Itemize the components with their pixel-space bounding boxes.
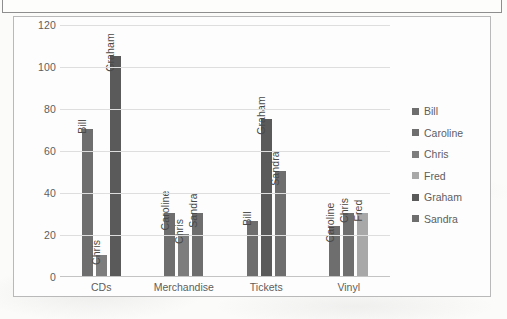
legend-label: Graham <box>424 191 462 203</box>
legend-label: Sandra <box>424 213 458 225</box>
chart-legend: BillCarolineChrisFredGrahamSandra <box>412 105 488 234</box>
bar-value-label: Fred <box>352 199 363 221</box>
x-axis-line <box>60 276 390 277</box>
gridline <box>60 109 390 110</box>
y-axis-tick-label: 60 <box>44 145 56 157</box>
page-bleed-text <box>60 301 460 317</box>
legend-item[interactable]: Caroline <box>412 127 488 139</box>
legend-label: Caroline <box>424 127 463 139</box>
bar-value-label: Sandra <box>187 193 198 227</box>
x-axis-category-label: Vinyl <box>308 281 391 293</box>
legend-item[interactable]: Chris <box>412 148 488 160</box>
legend-label: Bill <box>424 105 438 117</box>
y-axis-tick-label: 80 <box>44 103 56 115</box>
gridline <box>60 193 390 194</box>
legend-item[interactable]: Sandra <box>412 213 488 225</box>
y-axis-tick-label: 40 <box>44 187 56 199</box>
bar-value-label: Sandra <box>270 151 281 185</box>
bar-value-label: Graham <box>256 96 267 135</box>
legend-item[interactable]: Bill <box>412 105 488 117</box>
cropped-top-frame <box>2 0 502 13</box>
bar-value-label: Bill <box>242 211 253 225</box>
bar[interactable]: Graham <box>261 119 272 277</box>
bar-value-label: Caroline <box>159 190 170 230</box>
y-axis: 020406080100120 <box>22 25 56 277</box>
legend-swatch-icon <box>412 194 419 201</box>
legend-swatch-icon <box>412 215 419 222</box>
gridline <box>60 67 390 68</box>
gridline <box>60 151 390 152</box>
gridline <box>60 25 390 26</box>
bar-value-label: Graham <box>105 33 116 72</box>
y-axis-tick-label: 20 <box>44 229 56 241</box>
y-axis-tick-label: 100 <box>38 61 56 73</box>
plot-area: BillChrisGrahamCarolineChrisSandraBillGr… <box>60 25 390 277</box>
bar[interactable]: Bill <box>247 221 258 276</box>
bar[interactable]: Sandra <box>192 213 203 276</box>
bar-value-label: Chris <box>91 239 102 264</box>
x-axis-category-label: Merchandise <box>143 281 226 293</box>
bar[interactable]: Chris <box>343 213 354 276</box>
legend-swatch-icon <box>412 129 419 136</box>
bar[interactable]: Caroline <box>329 226 340 276</box>
gridline <box>60 235 390 236</box>
legend-item[interactable]: Graham <box>412 191 488 203</box>
bar-value-label: Bill <box>77 119 88 133</box>
bar[interactable]: Chris <box>178 234 189 276</box>
legend-item[interactable]: Fred <box>412 170 488 182</box>
x-axis-category-label: CDs <box>60 281 143 293</box>
legend-swatch-icon <box>412 172 419 179</box>
x-axis-category-label: Tickets <box>225 281 308 293</box>
y-axis-tick-label: 0 <box>50 271 56 283</box>
legend-label: Chris <box>424 148 449 160</box>
chart-plot-wrapper: 020406080100120 BillChrisGrahamCarolineC… <box>14 17 490 296</box>
y-axis-tick-label: 120 <box>38 19 56 31</box>
bar-value-label: Chris <box>173 218 184 243</box>
chart-frame: 020406080100120 BillChrisGrahamCarolineC… <box>13 16 491 297</box>
bar[interactable]: Sandra <box>275 171 286 276</box>
bar[interactable]: Fred <box>357 213 368 276</box>
legend-swatch-icon <box>412 108 419 115</box>
bar-value-label: Caroline <box>324 203 335 243</box>
bar[interactable]: Graham <box>110 56 121 277</box>
legend-label: Fred <box>424 170 446 182</box>
bar[interactable]: Chris <box>96 255 107 276</box>
x-axis-labels: CDsMerchandiseTicketsVinyl <box>60 281 390 293</box>
legend-swatch-icon <box>412 151 419 158</box>
bar-value-label: Chris <box>338 197 349 222</box>
